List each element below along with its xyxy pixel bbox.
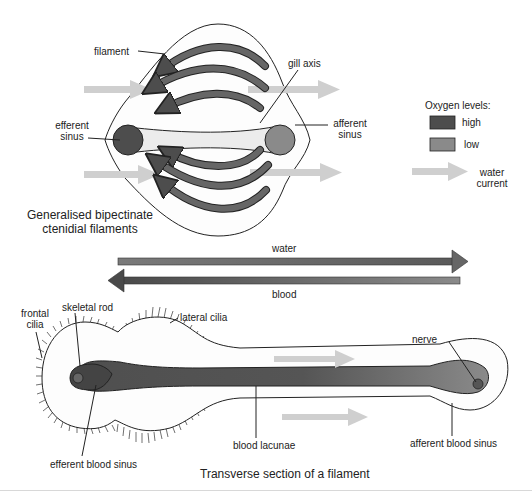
- label-blood: blood: [272, 289, 296, 300]
- legend-water-current-line1: water: [470, 167, 514, 178]
- label-frontal-cilia: frontal cilia: [18, 308, 52, 330]
- afferent-sinus-circle: [265, 125, 295, 155]
- label-gill-axis: gill axis: [288, 58, 321, 69]
- label-filament: filament: [94, 46, 129, 57]
- blood-flow-head: [108, 269, 124, 292]
- label-efferent-sinus-line2: sinus: [52, 131, 92, 142]
- label-afferent-sinus: afferent sinus: [330, 118, 370, 140]
- footer-divider: [0, 490, 532, 491]
- legend-water-current-line2: current: [470, 178, 514, 189]
- countercurrent-arrows: [108, 250, 468, 292]
- legend-label-low: low: [464, 139, 479, 150]
- caption-bipectinate-line1: Generalised bipectinate: [20, 208, 160, 222]
- label-skeletal-rod: skeletal rod: [62, 302, 113, 313]
- label-frontal-cilia-line1: frontal: [18, 308, 52, 319]
- caption-bipectinate: Generalised bipectinate ctenidial filame…: [20, 208, 160, 236]
- skeletal-rod-circle: [73, 373, 83, 383]
- blood-flow-bar: [122, 277, 460, 284]
- label-efferent-blood-sinus: efferent blood sinus: [50, 459, 137, 470]
- water-flow-head: [452, 250, 468, 273]
- label-blood-lacunae: blood lacunae: [233, 440, 295, 451]
- legend-water-current-label: water current: [470, 167, 514, 189]
- label-nerve: nerve: [412, 334, 437, 345]
- label-lateral-cilia: lateral cilia: [180, 312, 227, 323]
- legend-swatch-high: [430, 116, 455, 129]
- label-efferent-sinus-line1: efferent: [52, 120, 92, 131]
- legend-water-current-arrow: [412, 162, 468, 181]
- label-water: water: [272, 243, 296, 254]
- label-efferent-sinus: efferent sinus: [52, 120, 92, 142]
- label-afferent-sinus-line1: afferent: [330, 118, 370, 129]
- label-afferent-blood-sinus: afferent blood sinus: [410, 438, 497, 449]
- gill-diagram-canvas: [0, 0, 532, 501]
- legend: [412, 116, 468, 181]
- caption-bipectinate-line2: ctenidial filaments: [20, 222, 160, 236]
- legend-swatch-low: [430, 138, 455, 151]
- label-afferent-sinus-line2: sinus: [330, 129, 370, 140]
- legend-title: Oxygen levels:: [425, 100, 491, 111]
- label-frontal-cilia-line2: cilia: [18, 319, 52, 330]
- filament-transverse-section: [36, 307, 508, 456]
- water-flow-bar: [118, 258, 454, 265]
- legend-label-high: high: [462, 117, 481, 128]
- caption-transverse-section: Transverse section of a filament: [200, 467, 370, 481]
